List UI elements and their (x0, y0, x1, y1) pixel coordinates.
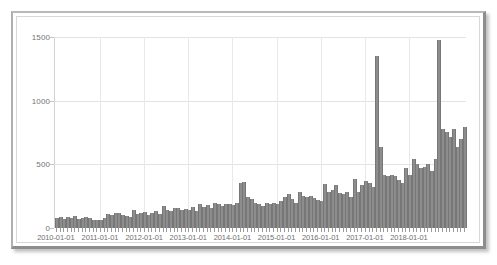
y-axis-tick-label: 500 (36, 160, 50, 169)
x-axis-minor-tick (391, 228, 392, 232)
x-axis-minor-tick (89, 228, 90, 232)
x-axis-minor-tick (394, 228, 395, 232)
gridline-vertical (321, 37, 322, 228)
x-axis-minor-tick (71, 228, 72, 232)
x-axis-minor-tick (324, 228, 325, 232)
x-axis-minor-tick (137, 228, 138, 232)
x-axis-minor-tick (214, 228, 215, 232)
x-axis-minor-tick (115, 228, 116, 232)
x-axis-minor-tick (431, 228, 432, 232)
x-axis-minor-tick (343, 228, 344, 232)
gridline-vertical (188, 37, 189, 228)
x-axis-tick-label: 2015-01-01 (258, 233, 295, 242)
x-axis-minor-tick (317, 228, 318, 232)
x-axis-minor-tick (96, 228, 97, 232)
x-axis-minor-tick (85, 228, 86, 232)
y-axis-tick-label: 1000 (32, 96, 50, 105)
x-axis-minor-tick (464, 228, 465, 232)
x-axis-minor-tick (291, 228, 292, 232)
x-axis-minor-tick (328, 228, 329, 232)
gridline-vertical (144, 37, 145, 228)
x-axis-minor-tick (93, 228, 94, 232)
x-axis-minor-tick (258, 228, 259, 232)
gridline-horizontal (54, 37, 466, 38)
x-axis-minor-tick (107, 228, 108, 232)
x-axis-minor-tick (446, 228, 447, 232)
x-axis-minor-tick (295, 228, 296, 232)
x-axis-minor-tick (155, 228, 156, 232)
x-axis-minor-tick (332, 228, 333, 232)
x-axis-minor-tick (82, 228, 83, 232)
x-axis-minor-tick (262, 228, 263, 232)
x-axis-minor-tick (380, 228, 381, 232)
x-axis-tick-labels: 2010-01-012011-01-012012-01-012013-01-01… (54, 233, 466, 245)
x-axis-minor-tick (361, 228, 362, 232)
x-axis-minor-tick (63, 228, 64, 232)
x-axis-minor-tick (174, 228, 175, 232)
x-axis-tick-label: 2018-01-01 (390, 233, 427, 242)
x-axis-minor-tick (313, 228, 314, 232)
x-axis-minor-tick (302, 228, 303, 232)
gridline-vertical (277, 37, 278, 228)
x-axis-minor-tick (277, 228, 278, 232)
x-axis-minor-tick (181, 228, 182, 232)
x-axis-tick-label: 2012-01-01 (125, 233, 162, 242)
x-axis-minor-tick (424, 228, 425, 232)
chart-frame-inner: 050010001500 2010-01-012011-01-012012-01… (16, 16, 480, 243)
x-axis-minor-tick (438, 228, 439, 232)
x-axis-minor-tick (148, 228, 149, 232)
x-axis-minor-tick (225, 228, 226, 232)
x-axis-minor-tick (159, 228, 160, 232)
x-axis-minor-tick (192, 228, 193, 232)
x-axis-minor-tick (221, 228, 222, 232)
x-axis-minor-tick (229, 228, 230, 232)
x-axis-minor-tick (288, 228, 289, 232)
y-axis-tick-labels: 050010001500 (17, 37, 50, 228)
x-axis-minor-tick (365, 228, 366, 232)
x-axis-minor-tick (405, 228, 406, 232)
x-axis-minor-tick (111, 228, 112, 232)
x-axis-tick-label: 2017-01-01 (346, 233, 383, 242)
x-axis-minor-tick (199, 228, 200, 232)
x-axis-minor-tick (240, 228, 241, 232)
x-axis-minor-tick (350, 228, 351, 232)
y-axis-line (54, 37, 55, 228)
x-axis-minor-tick (254, 228, 255, 232)
x-axis-minor-tick (177, 228, 178, 232)
x-axis-minor-tick (442, 228, 443, 232)
x-axis-minor-tick (163, 228, 164, 232)
x-axis-minor-tick (78, 228, 79, 232)
x-axis-minor-tick (118, 228, 119, 232)
x-axis-minor-tick (251, 228, 252, 232)
x-axis-minor-tick (306, 228, 307, 232)
x-axis-minor-tick (273, 228, 274, 232)
x-axis-minor-tick (369, 228, 370, 232)
x-axis-minor-tick (60, 228, 61, 232)
x-axis-minor-tick (416, 228, 417, 232)
x-axis-minor-tick (144, 228, 145, 232)
bar (463, 127, 467, 228)
x-axis-minor-tick (104, 228, 105, 232)
x-axis-minor-tick (185, 228, 186, 232)
x-axis-minor-tick (346, 228, 347, 232)
x-axis-minor-tick (166, 228, 167, 232)
x-axis-minor-tick (74, 228, 75, 232)
x-axis-minor-tick (203, 228, 204, 232)
x-axis-minor-tick (357, 228, 358, 232)
x-axis-minor-tick (210, 228, 211, 232)
x-axis-minor-tick (236, 228, 237, 232)
x-axis-minor-tick (383, 228, 384, 232)
x-axis-minor-tick (457, 228, 458, 232)
x-axis-tick-label: 2011-01-01 (82, 233, 119, 242)
x-axis-minor-tick (207, 228, 208, 232)
x-axis-minor-tick (232, 228, 233, 232)
x-axis-tick-marks (54, 228, 466, 232)
x-axis-minor-tick (449, 228, 450, 232)
x-axis-minor-tick (339, 228, 340, 232)
x-axis-minor-tick (266, 228, 267, 232)
x-axis-tick-label: 2016-01-01 (302, 233, 339, 242)
x-axis-minor-tick (372, 228, 373, 232)
x-axis-tick-label: 2014-01-01 (214, 233, 251, 242)
x-axis-minor-tick (151, 228, 152, 232)
gridline-vertical (100, 37, 101, 228)
